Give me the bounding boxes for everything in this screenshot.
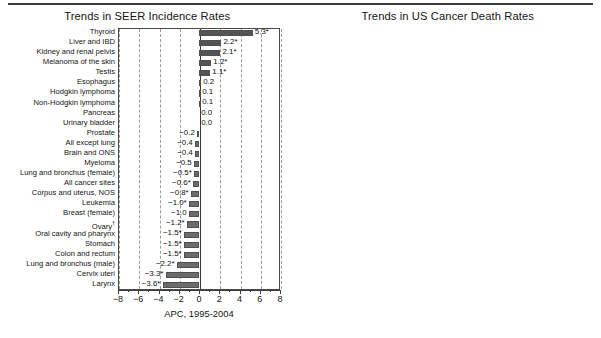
- bar-row: [118, 38, 280, 48]
- panel-title-left: Trends in SEER Incidence Rates: [0, 10, 295, 22]
- category-label: Pancreas: [0, 108, 115, 118]
- category-label: Myeloma: [0, 158, 115, 168]
- x-tick-minor-left--7: [128, 290, 129, 292]
- category-label: All cancer sites: [0, 178, 115, 188]
- category-label: Oral cavity and pharynx: [0, 229, 115, 239]
- value-label: −0.2: [179, 128, 195, 138]
- value-label: −0.4: [177, 148, 193, 158]
- bar-left-3[interactable]: [199, 60, 211, 66]
- bar-left-18[interactable]: [189, 211, 199, 217]
- bar-row: [118, 58, 280, 68]
- x-tick-minor-left--5: [148, 290, 149, 292]
- category-label: Thyroid: [0, 27, 115, 37]
- panel-seer-incidence: Trends in SEER Incidence Rates 5.3*2.2*2…: [0, 0, 301, 338]
- category-label: Hodgkin lymphoma: [0, 87, 115, 97]
- value-label: 1.1*: [212, 67, 226, 77]
- bar-row: [118, 88, 280, 98]
- bar-row: [118, 189, 280, 199]
- value-label: −0.5: [176, 158, 192, 168]
- bar-row: [118, 260, 280, 270]
- category-label: Cervix uteri: [0, 269, 115, 279]
- bar-left-19[interactable]: [187, 221, 199, 227]
- bar-rows-left: 5.3*2.2*2.1*1.2*1.1*0.20.10.10.00.0−0.2−…: [118, 28, 280, 290]
- gridline-left-8: [281, 29, 282, 289]
- bar-left-6[interactable]: [199, 90, 201, 96]
- value-label: 0.1: [202, 97, 213, 107]
- x-tick-minor-left-5: [250, 290, 251, 292]
- category-footnote-marker: †: [112, 220, 115, 226]
- bar-left-10[interactable]: [197, 131, 199, 137]
- bar-row: [118, 139, 280, 149]
- figure-container: Trends in SEER Incidence Rates 5.3*2.2*2…: [0, 0, 601, 338]
- plot-area-left: 5.3*2.2*2.1*1.2*1.1*0.20.10.10.00.0−0.2−…: [118, 28, 280, 290]
- value-label: 0.0: [201, 118, 212, 128]
- category-label: Non-Hodgkin lymphoma: [0, 98, 115, 108]
- x-tick-minor-left-1: [209, 290, 210, 292]
- bar-row: [118, 159, 280, 169]
- bar-left-1[interactable]: [199, 40, 221, 46]
- bar-left-15[interactable]: [193, 181, 199, 187]
- value-label: 5.3*: [255, 27, 269, 37]
- bar-row: [118, 209, 280, 219]
- bar-row: [118, 169, 280, 179]
- bar-left-22[interactable]: [184, 252, 199, 258]
- bar-row: [118, 149, 280, 159]
- bar-left-17[interactable]: [189, 201, 199, 207]
- bar-row: [118, 48, 280, 58]
- category-label: Testis: [0, 67, 115, 77]
- bar-left-2[interactable]: [199, 50, 220, 56]
- category-label: Esophagus: [0, 77, 115, 87]
- x-tick-minor-left-3: [229, 290, 230, 292]
- x-axis-title-left: APC, 1995-2004: [78, 308, 320, 319]
- bar-left-12[interactable]: [195, 151, 199, 157]
- value-label: −0.4: [177, 138, 193, 148]
- bar-row: [118, 199, 280, 209]
- category-label: All except lung: [0, 138, 115, 148]
- category-label: Melanoma of the skin: [0, 57, 115, 67]
- value-label: −2.2*: [156, 259, 175, 269]
- bar-left-23[interactable]: [177, 262, 199, 268]
- bar-left-4[interactable]: [199, 70, 210, 76]
- value-label: −3.3*: [145, 269, 164, 279]
- bar-left-21[interactable]: [184, 242, 199, 248]
- bar-left-20[interactable]: [184, 232, 199, 238]
- value-label: −0.5*: [173, 168, 192, 178]
- x-tick-minor-left--3: [169, 290, 170, 292]
- value-label: −1.5*: [163, 228, 182, 238]
- category-label: Corpus and uterus, NOS: [0, 188, 115, 198]
- value-label: 0.1: [202, 87, 213, 97]
- category-label: Ovary†: [0, 218, 115, 228]
- bar-left-25[interactable]: [163, 282, 199, 288]
- value-label: 0.2: [203, 77, 214, 87]
- bar-row: [118, 119, 280, 129]
- category-label: Leukemia: [0, 198, 115, 208]
- value-label: −1.5*: [163, 239, 182, 249]
- bar-left-11[interactable]: [195, 141, 199, 147]
- value-label: −1.0*: [168, 198, 187, 208]
- category-label: Kidney and renal pelvis: [0, 47, 115, 57]
- category-label: Urinary bladder: [0, 118, 115, 128]
- bar-row: [118, 78, 280, 88]
- panel-us-death-rates: Trends in US Cancer Death Rates 1.7*0.60…: [301, 0, 601, 338]
- bar-left-5[interactable]: [199, 80, 201, 86]
- bar-left-16[interactable]: [191, 191, 199, 197]
- value-label: −0.8*: [170, 188, 189, 198]
- value-label: −1.0: [171, 208, 187, 218]
- bar-left-0[interactable]: [199, 30, 253, 36]
- bar-row: [118, 99, 280, 109]
- value-label: −0.6*: [172, 178, 191, 188]
- bar-left-7[interactable]: [199, 101, 201, 107]
- x-tick-minor-left-7: [270, 290, 271, 292]
- category-label: Lung and bronchus (female): [0, 168, 115, 178]
- bar-left-13[interactable]: [194, 161, 199, 167]
- bar-left-14[interactable]: [194, 171, 199, 177]
- value-label: −1.5*: [163, 249, 182, 259]
- value-label: 1.2*: [213, 57, 227, 67]
- bar-row: [118, 230, 280, 240]
- category-label: Stomach: [0, 239, 115, 249]
- bar-row: [118, 240, 280, 250]
- category-label: Liver and IBD: [0, 37, 115, 47]
- category-label: Brain and ONS: [0, 148, 115, 158]
- bar-left-24[interactable]: [166, 272, 199, 278]
- value-label: −3.6*: [142, 279, 161, 289]
